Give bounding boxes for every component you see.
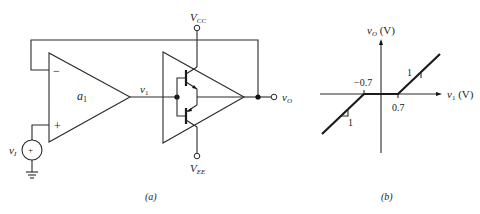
caption-b: (b)	[381, 191, 393, 203]
tick-pos-label: 0.7	[392, 102, 405, 113]
output-terminal	[271, 94, 277, 100]
x-axis-arrow-icon	[436, 92, 442, 96]
plus-sign: +	[54, 119, 61, 133]
opamp-a1	[49, 53, 130, 142]
minus-sign: −	[53, 64, 60, 78]
opamp-label: a1	[77, 89, 87, 104]
chart-b: vO (V) v1 (V) −0.7 0.7 1 1 (b)	[320, 24, 474, 203]
source-label: vI	[9, 144, 17, 158]
v1-label: v1	[140, 83, 149, 97]
vee-label: VEE	[190, 162, 206, 176]
slope-label-upper: 1	[407, 67, 412, 78]
vee-terminal	[194, 153, 200, 159]
caption-a: (a)	[145, 191, 157, 203]
y-axis-label: vO (V)	[367, 24, 395, 38]
figure-canvas: − + a1 + vI v1	[0, 0, 480, 214]
plus-input-wire	[32, 125, 49, 140]
slope-marker-upper	[415, 72, 421, 78]
tick-neg-label: −0.7	[354, 77, 372, 88]
slope-label-lower: 1	[348, 117, 353, 128]
source-plus: +	[28, 145, 33, 155]
vcc-label: VCC	[190, 11, 206, 25]
output-label: vO	[282, 91, 292, 105]
vcc-terminal	[194, 25, 200, 31]
output-node-dot	[255, 94, 260, 99]
circuit-a: − + a1 + vI v1	[9, 11, 292, 203]
y-axis-arrow-icon	[379, 39, 383, 45]
ground-icon	[26, 172, 38, 178]
x-axis-label: v1 (V)	[447, 88, 474, 102]
pnp-transistor-icon	[186, 105, 197, 127]
